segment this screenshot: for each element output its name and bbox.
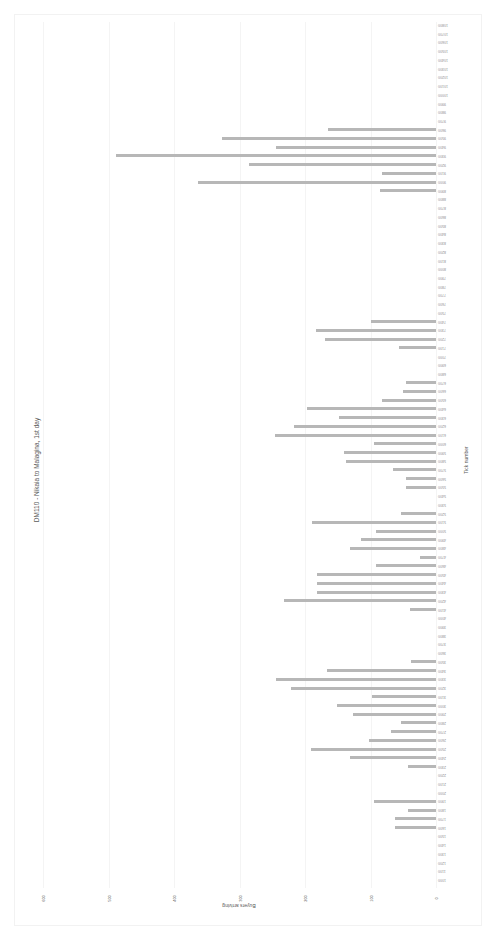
category-tick: 1800 xyxy=(438,808,446,812)
value-tick: 200 xyxy=(303,895,308,902)
category-tick: 7100 xyxy=(438,346,446,350)
category-tick: 7500 xyxy=(438,311,446,315)
bar-chart: DM110 - Nikaia to Malagina, 1st day Tick… xyxy=(0,0,482,940)
category-tick: 2200 xyxy=(438,773,446,777)
category-tick: 7600 xyxy=(438,302,446,306)
category-tick: 6700 xyxy=(438,381,446,385)
bar xyxy=(312,521,436,524)
category-tick: 3400 xyxy=(438,669,446,673)
bar xyxy=(401,721,436,724)
category-tick: 5800 xyxy=(438,459,446,463)
category-tick: 8900 xyxy=(438,189,446,193)
category-tick: 6500 xyxy=(438,398,446,402)
category-tick: 10700 xyxy=(438,32,448,36)
gridline xyxy=(109,22,110,888)
category-tick: 6000 xyxy=(438,442,446,446)
category-tick: 6100 xyxy=(438,433,446,437)
bar xyxy=(317,582,436,585)
category-tick: 9600 xyxy=(438,128,446,132)
category-tick: 3200 xyxy=(438,686,446,690)
category-tick: 7300 xyxy=(438,328,446,332)
category-axis-label: Tick number xyxy=(463,446,469,473)
category-tick: 9900 xyxy=(438,102,446,106)
bar xyxy=(316,329,436,332)
bar xyxy=(411,660,436,663)
bar xyxy=(284,599,436,602)
value-axis-label: Buyers arriving xyxy=(222,903,255,909)
category-tick: 5400 xyxy=(438,494,446,498)
bar xyxy=(395,826,436,829)
category-tick: 10400 xyxy=(438,58,448,62)
category-tick: 2000 xyxy=(438,791,446,795)
category-tick: 4000 xyxy=(438,616,446,620)
category-tick: 10100 xyxy=(438,84,448,88)
category-tick: 6600 xyxy=(438,389,446,393)
category-tick: 1600 xyxy=(438,826,446,830)
gridline xyxy=(240,22,241,888)
category-tick: 4500 xyxy=(438,573,446,577)
category-tick: 4900 xyxy=(438,538,446,542)
category-tick: 8400 xyxy=(438,232,446,236)
bar xyxy=(317,591,436,594)
category-tick: 9700 xyxy=(438,119,446,123)
category-tick: 3100 xyxy=(438,695,446,699)
bar xyxy=(275,434,436,437)
category-tick: 2700 xyxy=(438,730,446,734)
category-tick: 7200 xyxy=(438,337,446,341)
category-tick: 6400 xyxy=(438,407,446,411)
bar xyxy=(395,817,436,820)
category-tick: 2100 xyxy=(438,782,446,786)
bar xyxy=(382,172,436,175)
category-tick: 8500 xyxy=(438,224,446,228)
category-tick: 2600 xyxy=(438,738,446,742)
category-tick: 8800 xyxy=(438,197,446,201)
category-tick: 9200 xyxy=(438,163,446,167)
bar xyxy=(380,189,436,192)
category-tick: 9300 xyxy=(438,154,446,158)
category-tick: 5300 xyxy=(438,503,446,507)
value-tick: 300 xyxy=(237,895,242,902)
category-tick: 3900 xyxy=(438,625,446,629)
category-tick: 4600 xyxy=(438,564,446,568)
value-tick: 600 xyxy=(41,895,46,902)
value-tick: 400 xyxy=(172,895,177,902)
category-tick: 9800 xyxy=(438,110,446,114)
bar xyxy=(328,128,436,131)
category-tick: 1100 xyxy=(438,869,446,873)
category-tick: 2500 xyxy=(438,747,446,751)
bar xyxy=(350,756,436,759)
bar xyxy=(276,146,436,149)
category-tick: 4300 xyxy=(438,590,446,594)
category-tick: 8200 xyxy=(438,250,446,254)
category-tick: 6900 xyxy=(438,363,446,367)
category-tick: 7000 xyxy=(438,355,446,359)
bar xyxy=(401,512,436,515)
bar xyxy=(376,564,436,567)
bar xyxy=(276,678,436,681)
category-tick: 1900 xyxy=(438,799,446,803)
bar xyxy=(325,338,436,341)
category-tick: 8700 xyxy=(438,206,446,210)
bar xyxy=(393,468,436,471)
category-tick: 5700 xyxy=(438,468,446,472)
category-tick: 8000 xyxy=(438,267,446,271)
category-tick: 3700 xyxy=(438,642,446,646)
gridline xyxy=(174,22,175,888)
bar xyxy=(420,556,436,559)
bar xyxy=(391,730,436,733)
category-tick: 1700 xyxy=(438,817,446,821)
bar xyxy=(361,538,436,541)
category-tick: 8300 xyxy=(438,241,446,245)
category-tick: 2900 xyxy=(438,712,446,716)
bar xyxy=(408,765,436,768)
bar xyxy=(311,748,436,751)
value-tick: 100 xyxy=(368,895,373,902)
category-tick: 9000 xyxy=(438,180,446,184)
bar xyxy=(410,608,436,611)
bar xyxy=(198,181,436,184)
category-tick: 2800 xyxy=(438,721,446,725)
bar xyxy=(222,137,436,140)
category-tick: 10800 xyxy=(438,23,448,27)
bar xyxy=(382,399,436,402)
bar xyxy=(344,451,436,454)
